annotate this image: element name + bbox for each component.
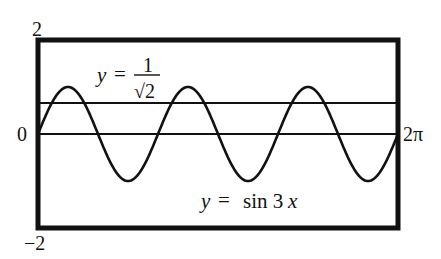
sine-chart: 2 −2 0 2π y = 1 √2 y = sin 3 x bbox=[0, 0, 441, 259]
y-min-label: −2 bbox=[24, 232, 45, 254]
hline-annotation-y: y bbox=[95, 63, 107, 87]
curve-annotation-fn: sin 3 bbox=[243, 189, 283, 213]
curve-annotation: y = sin 3 x bbox=[199, 188, 298, 213]
hline-annotation-denominator: √2 bbox=[134, 80, 155, 102]
curve-annotation-x: x bbox=[287, 189, 298, 213]
curve-annotation-y: y bbox=[199, 189, 211, 213]
curve-annotation-eq: = bbox=[218, 188, 230, 212]
x-max-label: 2π bbox=[403, 123, 423, 145]
hline-annotation-numerator: 1 bbox=[143, 54, 153, 76]
hline-annotation-eq: = bbox=[114, 62, 126, 86]
y-max-label: 2 bbox=[32, 18, 42, 40]
y-zero-label: 0 bbox=[17, 123, 27, 145]
hline-annotation: y = 1 √2 bbox=[95, 54, 160, 102]
